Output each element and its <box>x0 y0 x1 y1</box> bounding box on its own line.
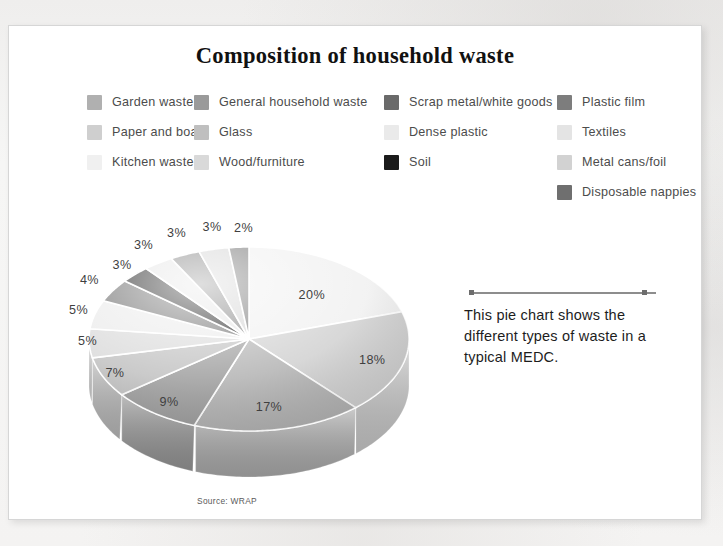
legend-item-label: Garden waste <box>112 95 193 109</box>
source-note: Source: WRAP <box>197 496 257 506</box>
legend-item-label: Plastic film <box>582 95 645 109</box>
caption-rule <box>464 289 664 297</box>
legend-swatch-icon <box>384 95 399 110</box>
legend-column-1: Garden wastePaper and boardKitchen waste <box>87 87 210 177</box>
legend-item[interactable]: Disposable nappies <box>557 177 696 207</box>
legend-item[interactable]: Garden waste <box>87 87 210 117</box>
pie-chart-svg: 20%18%17%9%7%5%5%4%3%3%3%3%2% <box>49 199 449 489</box>
caption-rule-dot-right <box>642 290 647 295</box>
legend-item[interactable]: Glass <box>194 117 368 147</box>
legend-item-label: Kitchen waste <box>112 155 194 169</box>
legend-item-label: General household waste <box>219 95 368 109</box>
legend-item-label: Metal cans/foil <box>582 155 666 169</box>
legend-swatch-icon <box>87 95 102 110</box>
legend-swatch-icon <box>384 155 399 170</box>
legend-swatch-icon <box>557 185 572 200</box>
caption-box: This pie chart shows the different types… <box>464 289 664 368</box>
screenshot-root: Composition of household waste Garden wa… <box>0 0 723 546</box>
legend-column-3: Scrap metal/white goodsDense plasticSoil <box>384 87 553 177</box>
pie-slice-percent-label: 4% <box>80 273 99 287</box>
legend-swatch-icon <box>557 125 572 140</box>
pie-slice-percent-label: 2% <box>234 221 253 235</box>
page-title: Composition of household waste <box>9 43 701 69</box>
pie-slice-percent-label: 9% <box>160 395 179 409</box>
pie-slice-percent-label: 5% <box>69 303 88 317</box>
legend-swatch-icon <box>557 155 572 170</box>
legend-swatch-icon <box>87 125 102 140</box>
legend-item[interactable]: Wood/furniture <box>194 147 368 177</box>
pie-slice-percent-label: 17% <box>256 400 282 414</box>
pie-slice-percent-label: 7% <box>105 366 124 380</box>
legend-item[interactable]: General household waste <box>194 87 368 117</box>
pie-chart: 20%18%17%9%7%5%5%4%3%3%3%3%2% <box>49 199 449 489</box>
pie-slice-percent-label: 5% <box>78 334 97 348</box>
legend-item[interactable]: Metal cans/foil <box>557 147 696 177</box>
legend-item[interactable]: Dense plastic <box>384 117 553 147</box>
legend-swatch-icon <box>87 155 102 170</box>
caption-rule-bar <box>472 292 656 294</box>
legend-item-label: Dense plastic <box>409 125 488 139</box>
legend-item[interactable]: Soil <box>384 147 553 177</box>
pie-slice-percent-label: 18% <box>359 353 385 367</box>
pie-slice-percent-label: 3% <box>167 226 186 240</box>
legend-item-label: Disposable nappies <box>582 185 696 199</box>
legend-swatch-icon <box>194 95 209 110</box>
pie-slice-percent-label: 3% <box>134 238 153 252</box>
pie-slice-percent-label: 3% <box>113 258 132 272</box>
legend-item-label: Soil <box>409 155 431 169</box>
legend-swatch-icon <box>194 125 209 140</box>
legend-swatch-icon <box>557 95 572 110</box>
legend-column-4: Plastic filmTextilesMetal cans/foilDispo… <box>557 87 696 207</box>
legend-column-2: General household wasteGlassWood/furnitu… <box>194 87 368 177</box>
legend-swatch-icon <box>384 125 399 140</box>
page-card: Composition of household waste Garden wa… <box>8 25 702 520</box>
legend-item[interactable]: Scrap metal/white goods <box>384 87 553 117</box>
legend-item[interactable]: Kitchen waste <box>87 147 210 177</box>
legend-item-label: Scrap metal/white goods <box>409 95 553 109</box>
legend-item-label: Textiles <box>582 125 626 139</box>
legend-swatch-icon <box>194 155 209 170</box>
legend-item[interactable]: Textiles <box>557 117 696 147</box>
legend-item[interactable]: Paper and board <box>87 117 210 147</box>
legend-item-label: Wood/furniture <box>219 155 305 169</box>
pie-slice-percent-label: 3% <box>203 220 222 234</box>
pie-top-faces <box>89 247 409 431</box>
pie-slice-percent-label: 20% <box>299 288 325 302</box>
chart-legend: Garden wastePaper and boardKitchen waste… <box>9 87 701 202</box>
legend-item[interactable]: Plastic film <box>557 87 696 117</box>
legend-item-label: Glass <box>219 125 252 139</box>
caption-rule-dot-left <box>469 290 474 295</box>
caption-text: This pie chart shows the different types… <box>464 305 664 368</box>
